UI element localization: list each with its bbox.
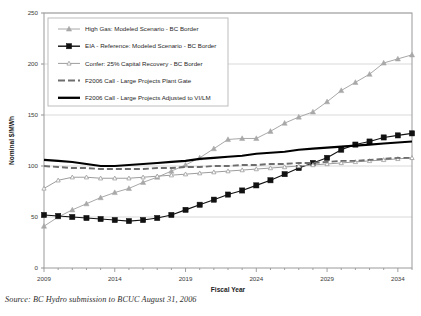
- series-marker-1: [183, 207, 188, 212]
- chart-container: 050100150200250200920142019202420292034F…: [0, 0, 421, 316]
- series-marker-2: [141, 175, 145, 179]
- series-marker-1: [381, 135, 386, 140]
- legend-marker-1: [66, 44, 71, 49]
- x-axis-tick-label: 2024: [249, 275, 263, 282]
- series-marker-1: [98, 216, 103, 221]
- x-axis-tick-label: 2019: [179, 275, 193, 282]
- y-axis-title: Nominal $/MWh: [8, 116, 16, 165]
- series-marker-1: [395, 133, 400, 138]
- series-marker-1: [169, 212, 174, 217]
- x-axis-tick-label: 2014: [108, 275, 122, 282]
- series-marker-2: [42, 186, 46, 190]
- series-marker-1: [409, 131, 414, 136]
- series-marker-1: [41, 212, 46, 217]
- series-marker-1: [324, 155, 329, 160]
- series-marker-0: [211, 146, 216, 151]
- series-marker-1: [225, 192, 230, 197]
- series-marker-0: [353, 80, 358, 85]
- legend-label-2: Confer: 25% Capital Recovery - BC Border: [85, 60, 203, 67]
- series-marker-1: [197, 202, 202, 207]
- series-marker-0: [339, 88, 344, 93]
- series-marker-2: [183, 172, 187, 176]
- series-marker-2: [169, 173, 173, 177]
- series-marker-2: [283, 165, 287, 169]
- y-axis-tick-label: 150: [28, 111, 39, 118]
- series-marker-0: [310, 109, 315, 114]
- series-marker-0: [41, 223, 46, 228]
- series-marker-1: [268, 178, 273, 183]
- series-marker-1: [84, 215, 89, 220]
- series-marker-1: [367, 139, 372, 144]
- y-axis-tick-label: 0: [35, 264, 39, 271]
- series-marker-2: [198, 171, 202, 175]
- series-marker-1: [339, 147, 344, 152]
- y-axis-tick-label: 50: [31, 213, 38, 220]
- series-marker-2: [410, 156, 414, 160]
- series-marker-2: [226, 169, 230, 173]
- series-marker-2: [127, 176, 131, 180]
- series-marker-1: [282, 172, 287, 177]
- series-marker-1: [70, 214, 75, 219]
- legend-label-3: F2006 Call - Large Projects Plant Gate: [85, 77, 192, 84]
- series-marker-2: [56, 178, 60, 182]
- series-marker-1: [211, 197, 216, 202]
- source-caption: Source: BC Hydro submission to BCUC Augu…: [5, 295, 197, 304]
- series-marker-2: [155, 174, 159, 178]
- x-axis-tick-label: 2029: [320, 275, 334, 282]
- legend-label-4: F2006 Call - Large Projects Adjusted to …: [85, 94, 211, 101]
- series-marker-0: [409, 52, 414, 57]
- y-axis-tick-label: 100: [28, 162, 39, 169]
- series-marker-1: [155, 215, 160, 220]
- y-axis-tick-label: 250: [28, 9, 39, 16]
- series-marker-1: [254, 183, 259, 188]
- series-marker-1: [56, 213, 61, 218]
- series-marker-2: [297, 164, 301, 168]
- series-marker-1: [126, 218, 131, 223]
- series-marker-1: [140, 217, 145, 222]
- x-axis-tick-label: 2034: [391, 275, 405, 282]
- x-axis-tick-label: 2009: [37, 275, 51, 282]
- series-marker-1: [112, 217, 117, 222]
- x-axis-title: Fiscal Year: [211, 286, 246, 293]
- series-marker-2: [268, 166, 272, 170]
- legend-label-1: EIA - Reference: Modeled Scenario - BC B…: [85, 42, 216, 49]
- y-axis-tick-label: 200: [28, 60, 39, 67]
- series-marker-2: [212, 170, 216, 174]
- series-marker-2: [254, 167, 258, 171]
- line-chart: 050100150200250200920142019202420292034F…: [0, 0, 421, 316]
- series-marker-2: [240, 168, 244, 172]
- series-marker-1: [240, 188, 245, 193]
- series-marker-2: [113, 176, 117, 180]
- series-marker-2: [70, 175, 74, 179]
- series-marker-2: [99, 176, 103, 180]
- series-marker-2: [84, 175, 88, 179]
- legend-label-0: High Gas: Modeled Scenario - BC Border: [85, 25, 199, 32]
- series-marker-0: [268, 129, 273, 134]
